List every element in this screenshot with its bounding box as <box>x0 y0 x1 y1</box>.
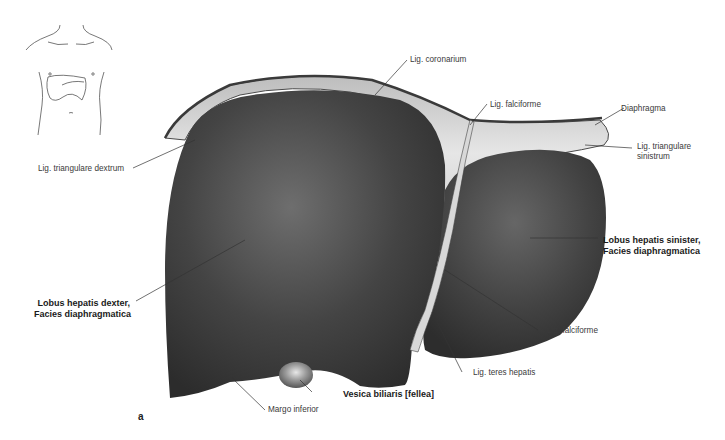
label-lobus-dexter-line2: Facies diaphragmatica <box>34 309 130 320</box>
label-lig-triangulare-dextrum: Lig. triangulare dextrum <box>38 164 124 174</box>
label-lig-falciforme-bottom: Lig. falciforme <box>547 326 598 336</box>
panel-letter: a <box>138 411 144 422</box>
label-diaphragma: Diaphragma <box>621 104 666 114</box>
liver-anatomy-illustration <box>0 0 725 440</box>
torso-orientation-icon <box>26 25 112 135</box>
label-lobus-dexter-line1: Lobus hepatis dexter, <box>34 298 130 309</box>
label-lig-triangulare-sinistrum-line2: sinistrum <box>637 152 691 162</box>
label-vesica-biliaris: Vesica biliaris [fellea] <box>343 389 434 400</box>
label-lobus-hepatis-dexter: Lobus hepatis dexter, Facies diaphragmat… <box>34 298 130 320</box>
lobus-hepatis-dexter <box>165 90 445 398</box>
label-lig-coronarium: Lig. coronarium <box>410 55 466 65</box>
label-lig-triangulare-sinistrum: Lig. triangulare sinistrum <box>637 142 691 162</box>
label-lig-triangulare-sinistrum-line1: Lig. triangulare <box>637 142 691 152</box>
vesica-biliaris <box>279 362 313 388</box>
label-lobus-sinister-line1: Lobus hepatis sinister, <box>603 235 701 246</box>
label-lig-teres-hepatis: Lig. teres hepatis <box>473 368 535 378</box>
label-lig-falciforme-top: Lig. falciforme <box>490 100 541 110</box>
label-margo-inferior: Margo inferior <box>268 405 319 415</box>
label-lobus-sinister-line2: Facies diaphragmatica <box>603 246 701 257</box>
label-lobus-hepatis-sinister: Lobus hepatis sinister, Facies diaphragm… <box>603 235 701 257</box>
